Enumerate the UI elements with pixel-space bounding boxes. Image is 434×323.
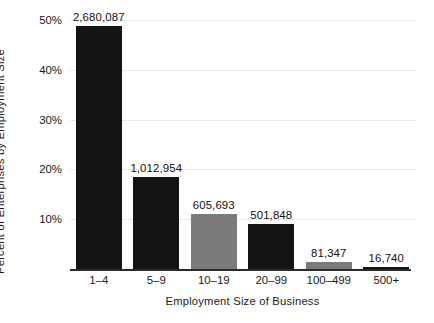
- plot-area: 2,680,0871,012,954605,693501,84881,34716…: [70, 20, 415, 269]
- bar-value-label: 1,012,954: [111, 162, 201, 174]
- gridline: [70, 70, 415, 71]
- x-axis-line: [70, 269, 411, 271]
- x-axis-title: Employment Size of Business: [70, 295, 415, 307]
- bar-chart: Percent of Enterprises by Employment Siz…: [0, 0, 434, 323]
- bar: [76, 26, 122, 269]
- x-tick-label: 500+: [341, 274, 431, 286]
- bar: [191, 214, 237, 269]
- y-axis-tick-labels: 10%20%30%40%50%: [16, 20, 62, 269]
- bar: [133, 177, 179, 269]
- y-tick-label: 40%: [16, 64, 62, 76]
- y-tick-label: 10%: [16, 213, 62, 225]
- bar-value-label: 16,740: [341, 252, 431, 264]
- bar-value-label: 2,680,087: [54, 11, 144, 23]
- y-tick-label: 20%: [16, 163, 62, 175]
- x-axis-tick-labels: 1–45–910–1920–99100–499500+: [70, 274, 415, 294]
- y-tick-label: 30%: [16, 114, 62, 126]
- bar-value-label: 501,848: [226, 209, 316, 221]
- gridline: [70, 120, 415, 121]
